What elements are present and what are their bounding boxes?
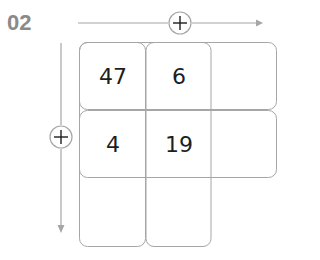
grid-cell-r2c3 [212,111,278,177]
plus-circle-icon [50,126,72,148]
grid-cell-r1c2: 6 [146,43,212,109]
arrow-right-icon [256,20,263,27]
plus-circle-icon [169,12,191,34]
grid-cell-r2c2: 19 [146,111,212,177]
grid-cell-r1c3 [212,43,278,109]
arrow-down-icon [58,225,65,233]
grid-cell-r1c1: 47 [80,43,146,109]
grid-cell-r2c1: 4 [80,111,146,177]
